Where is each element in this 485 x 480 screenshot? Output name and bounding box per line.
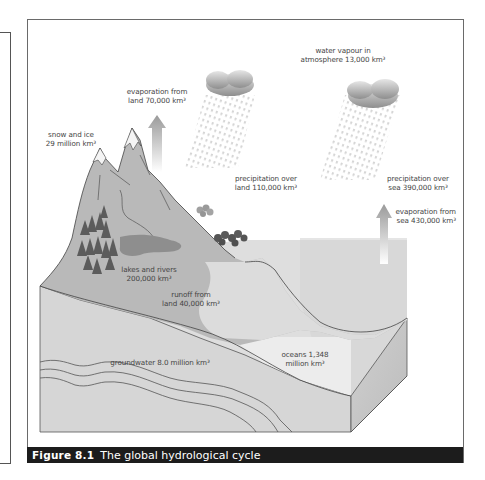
label-line: 200,000 km³ (118, 274, 180, 283)
label-line: 29 million km³ (40, 139, 102, 148)
label-line: land 110,000 km³ (226, 183, 306, 192)
label-line: lakes and rivers (118, 265, 180, 274)
rain-over-land (185, 95, 255, 168)
label-evaporation-land: evaporation from land 70,000 km³ (112, 87, 202, 105)
rain-over-sea (320, 95, 400, 180)
label-line: precipitation over (378, 174, 458, 183)
figure-title: The global hydrological cycle (100, 449, 260, 462)
label-groundwater: groundwater 8.0 million km³ (105, 358, 215, 367)
cloud-over-land (206, 70, 254, 96)
label-snow-ice: snow and ice 29 million km³ (40, 130, 102, 148)
label-line: evaporation from (385, 207, 456, 216)
label-lakes-rivers: lakes and rivers 200,000 km³ (118, 265, 180, 283)
label-line: groundwater 8.0 million km³ (105, 358, 215, 367)
label-line: land 40,000 km³ (156, 299, 226, 308)
label-line: snow and ice (40, 130, 102, 139)
label-line: sea 390,000 km³ (378, 183, 458, 192)
label-runoff: runoff from land 40,000 km³ (156, 290, 226, 308)
figure-number: Figure 8.1 (32, 449, 94, 461)
figure-caption: Figure 8.1 The global hydrological cycle (27, 447, 463, 463)
label-line: runoff from (156, 290, 226, 299)
label-line: land 70,000 km³ (112, 96, 202, 105)
label-precipitation-sea: precipitation over sea 390,000 km³ (378, 174, 458, 192)
label-evaporation-sea: evaporation from sea 430,000 km³ (385, 207, 456, 225)
label-line: water vapour in (283, 46, 403, 55)
hydrological-cycle-diagram (0, 0, 485, 480)
label-line: atmosphere 13,000 km³ (283, 55, 403, 64)
label-line: precipitation over (226, 174, 306, 183)
label-line: oceans 1,348 (280, 350, 330, 359)
label-line: sea 430,000 km³ (385, 216, 456, 225)
label-line: million km³ (280, 359, 330, 368)
label-oceans: oceans 1,348 million km³ (280, 350, 330, 368)
label-water-vapour: water vapour in atmosphere 13,000 km³ (283, 46, 403, 64)
cloud-over-sea (347, 79, 399, 108)
label-precipitation-land: precipitation over land 110,000 km³ (226, 174, 306, 192)
evaporation-arrow-land (148, 115, 166, 172)
label-line: evaporation from (112, 87, 202, 96)
